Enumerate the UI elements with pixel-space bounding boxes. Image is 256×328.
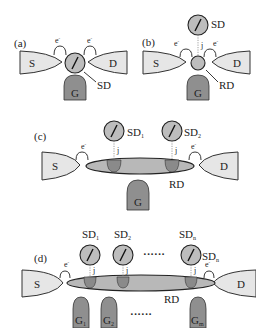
coupling-label: j: [92, 266, 95, 275]
dot-pointer: [84, 72, 96, 82]
tunnel-arc-left: [76, 152, 88, 160]
dot-label: SD: [97, 79, 111, 91]
tunnel-arc-right: [189, 152, 201, 160]
tunnel-arc-left: [180, 49, 192, 57]
regular-dot: [191, 56, 205, 70]
spin-dot-2-label: SD2: [184, 126, 201, 139]
reg-dot-label: RD: [169, 178, 184, 190]
tunnel-arc-right: [204, 271, 214, 278]
drain-label: D: [237, 278, 245, 290]
panel-b: (b) S D e- e- SD j G RD: [142, 15, 250, 100]
coupling-label: j: [200, 41, 203, 50]
panel-b-label: (b): [142, 36, 155, 49]
spin-dot-n-side-label: SDn: [202, 250, 219, 263]
coupling-label: j: [125, 266, 128, 275]
electron-label-left: e-: [174, 39, 180, 48]
source-lead: [143, 51, 186, 74]
spin-dot-2-label: SD2: [114, 228, 131, 241]
drain-label: D: [220, 160, 228, 172]
drain-lead: [199, 152, 238, 180]
spin-dot-label: SD: [211, 18, 225, 30]
quantum-dot-diagram: (a) S D e- e- G SD (b) S D e- e- SD: [0, 0, 256, 328]
source-lead: [20, 51, 62, 74]
coupling-label: j: [174, 146, 177, 155]
drain-lead: [212, 51, 250, 74]
source-lead: [42, 152, 80, 180]
electron-label-left: e-: [64, 260, 70, 269]
drain-label: D: [233, 57, 241, 69]
electron-label-right: e-: [213, 39, 219, 48]
panel-c: (c) S D e- e- SD1 j SD2 j G RD: [34, 121, 238, 210]
spin-dot-1-label: SD1: [82, 228, 99, 241]
gate-label: G: [134, 196, 142, 208]
electron-label-left: e-: [55, 36, 61, 45]
reg-dot-label: RD: [219, 79, 234, 91]
electron-label-right: e-: [87, 36, 93, 45]
drain-label: D: [109, 57, 117, 69]
source-label: S: [153, 57, 159, 69]
panel-d-label: (d): [34, 252, 47, 265]
spin-dot-1-label: SD1: [127, 126, 144, 139]
coupling-label: j: [116, 146, 119, 155]
gate-label: G: [194, 87, 202, 99]
source-label: S: [34, 278, 40, 290]
drain-lead: [213, 270, 256, 297]
source-label: S: [29, 57, 35, 69]
panel-c-label: (c): [34, 130, 47, 143]
panel-d: (d) S D e- e- SD1 j SD2 j ······ SDn j S…: [22, 228, 256, 328]
tunnel-arc-right: [204, 49, 216, 57]
panel-a-label: (a): [14, 37, 27, 50]
spin-dot-ellipsis: ······: [143, 248, 165, 260]
gate-label: G: [71, 87, 79, 99]
gate-ellipsis: ······: [130, 308, 152, 320]
drain-lead: [88, 51, 127, 74]
tunnel-arc-left: [60, 271, 70, 278]
source-lead: [22, 270, 63, 297]
electron-label-right: e-: [191, 142, 197, 151]
tunnel-arc-left: [54, 46, 66, 55]
reg-dot-label: RD: [164, 293, 179, 305]
panel-a: (a) S D e- e- G SD: [14, 36, 127, 100]
tunnel-arc-right: [84, 46, 96, 55]
electron-label-left: e-: [81, 142, 87, 151]
spin-dot-n-label: SDn: [179, 228, 196, 241]
coupling-label: j: [193, 266, 196, 275]
source-label: S: [52, 160, 58, 172]
